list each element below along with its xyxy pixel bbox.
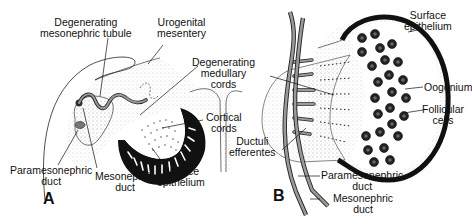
- panel-letter-a: A: [43, 190, 55, 208]
- label-degenerating-mesonephric-tubule: Degenerating mesonephric tubule: [40, 17, 132, 39]
- label-oogonium: Oogonium: [424, 82, 472, 93]
- label-mesonephric-duct-b: Mesonephric duct: [333, 193, 393, 215]
- label-line: duct: [333, 204, 393, 215]
- label-paramesonephric-duct-a: Paramesonephric duct: [10, 165, 92, 187]
- label-line: cords: [206, 123, 242, 134]
- panel-letter-b: B: [273, 187, 285, 205]
- label-line: duct: [321, 181, 403, 192]
- label-urogenital-mesentery: Urogenital mesentery: [157, 17, 206, 39]
- label-mesonephric-duct-a: Mesonephric duct: [95, 171, 155, 193]
- label-follicular-cells: Follicular cells: [422, 104, 464, 126]
- label-ductuli-efferentes: Ductuli efferentes: [229, 136, 276, 158]
- label-line: duct: [95, 182, 155, 193]
- label-cortical-cords: Cortical cords: [206, 112, 242, 134]
- label-degenerating-medullary-cords: Degenerating medullary cords: [192, 57, 255, 90]
- label-line: duct: [10, 176, 92, 187]
- label-line: mesentery: [157, 28, 206, 39]
- label-line: cords: [192, 79, 255, 90]
- label-line: Oogonium: [424, 82, 472, 93]
- label-surface-epithelium-a: Surface epithelium: [157, 166, 205, 188]
- label-paramesonephric-duct-b: Paramesonephric duct: [321, 170, 403, 192]
- label-line: epithelium: [404, 21, 452, 32]
- label-line: cells: [422, 115, 464, 126]
- label-line: efferentes: [229, 147, 276, 158]
- label-line: epithelium: [157, 177, 205, 188]
- label-line: mesonephric tubule: [40, 28, 132, 39]
- label-surface-epithelium-b: Surface epithelium: [404, 10, 452, 32]
